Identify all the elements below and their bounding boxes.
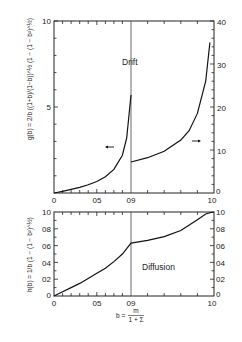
drift-right-tick-20: 20 (217, 104, 226, 113)
diffusion-left-tick-10: 10 (42, 208, 51, 217)
drift-right-tick-40: 40 (217, 18, 226, 27)
diffusion-plot: Diffusion 10 08 06 04 02 0 10 08 06 04 0… (26, 208, 225, 323)
drift-right-tick-10: 10 (217, 147, 226, 156)
arrow-right-icon (192, 140, 201, 143)
diffusion-right-tick-02: 02 (216, 275, 225, 284)
diffusion-x-tick-05: 05 (93, 299, 102, 308)
diffusion-right-tick-0: 0 (216, 290, 221, 299)
diffusion-left-tick-04: 04 (42, 259, 51, 268)
diffusion-right-tick-04: 04 (216, 259, 225, 268)
diffusion-left-tick-06: 06 (42, 242, 51, 251)
drift-x-tick-05: 05 (93, 196, 102, 205)
diffusion-annotation: Diffusion (142, 262, 175, 272)
diffusion-y-axis-label: h(b) = 1/b (1 − (1 − b²)^½) (26, 217, 34, 292)
drift-right-tick-30: 30 (217, 61, 226, 70)
diffusion-x-tick-10: 10 (208, 299, 217, 308)
drift-curve-right (131, 43, 210, 163)
drift-y-axis-label: g(b) = 2/b ((1+b)/(1−b))^½ (1 − (1 − b²)… (26, 18, 34, 140)
x-axis-label-denominator: 1 + Σ (128, 316, 143, 323)
diffusion-x-ticks (63, 212, 198, 296)
drift-plot: Drift 10 5 40 30 20 10 0 0 05 09 10 g(b)… (26, 17, 226, 205)
x-axis-label-prefix: b = (116, 312, 125, 319)
drift-left-ticks (54, 21, 58, 176)
drift-left-tick-10: 10 (42, 17, 51, 26)
diffusion-y-ticks (54, 220, 214, 287)
diffusion-left-tick-08: 08 (42, 225, 51, 234)
diffusion-right-tick-06: 06 (216, 242, 225, 251)
drift-x-tick-09: 09 (127, 196, 136, 205)
drift-plot-frame (54, 21, 214, 193)
x-axis-label: b = m 1 + Σ (116, 307, 144, 323)
diffusion-left-tick-02: 02 (42, 275, 51, 284)
drift-right-ticks (210, 21, 214, 184)
diffusion-right-tick-10: 10 (216, 208, 225, 217)
drift-annotation: Drift (122, 57, 138, 67)
x-axis-label-numerator: m (133, 307, 138, 314)
arrow-left-icon (105, 146, 114, 149)
diffusion-right-tick-08: 08 (216, 225, 225, 234)
drift-left-tick-5: 5 (47, 103, 52, 112)
drift-x-tick-10: 10 (208, 196, 217, 205)
diffusion-curve (54, 212, 214, 296)
diffusion-x-tick-0: 0 (52, 299, 57, 308)
drift-curve-left (54, 95, 131, 193)
figure: Drift 10 5 40 30 20 10 0 0 05 09 10 g(b)… (0, 0, 242, 342)
drift-x-tick-0: 0 (52, 196, 57, 205)
drift-right-tick-0: 0 (216, 187, 221, 196)
